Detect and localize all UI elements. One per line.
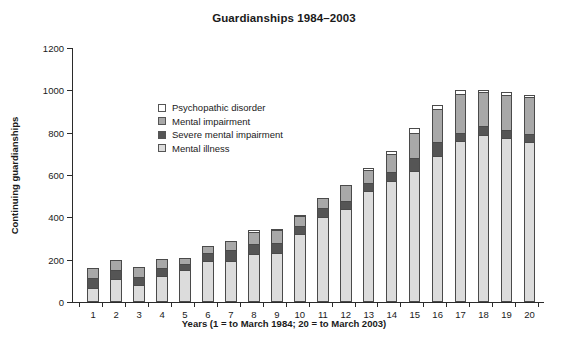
- legend-swatch-icon: [158, 104, 166, 112]
- bar-segment: [432, 156, 443, 302]
- x-axis-tick: [148, 302, 149, 307]
- bar-stack[interactable]: [478, 90, 489, 302]
- bar-stack[interactable]: [294, 215, 305, 302]
- bar-segment: [409, 158, 420, 171]
- bar-segment: [271, 243, 282, 254]
- bar-segment: [432, 109, 443, 142]
- bar-stack[interactable]: [87, 268, 98, 302]
- legend-item[interactable]: Mental impairment: [158, 115, 283, 129]
- bar-segment: [455, 141, 466, 302]
- bar-segment: [87, 278, 98, 289]
- y-axis-title: Continuing guardianships: [8, 48, 22, 302]
- bar-segment: [524, 142, 535, 302]
- bar-segment: [317, 208, 328, 218]
- y-axis-tick: [67, 302, 72, 303]
- x-axis-tick: [423, 302, 424, 307]
- bar-segment: [225, 261, 236, 302]
- bar-segment: [248, 244, 259, 255]
- bar-segment: [110, 279, 121, 302]
- legend-item[interactable]: Mental illness: [158, 142, 283, 156]
- legend-item[interactable]: Severe mental impairment: [158, 128, 283, 142]
- bar-segment: [501, 138, 512, 302]
- plot-area: 020040060080010001200 123456789101112131…: [72, 48, 544, 302]
- bar-segment: [386, 181, 397, 302]
- bar-stack[interactable]: [156, 259, 167, 302]
- bar-segment: [409, 133, 420, 158]
- bar-stack[interactable]: [340, 185, 351, 302]
- bar-segment: [133, 267, 144, 277]
- bar-stack[interactable]: [386, 151, 397, 302]
- x-axis-tick: [515, 302, 516, 307]
- bar-segment: [386, 154, 397, 172]
- x-axis-tick: [400, 302, 401, 307]
- y-axis-tick-label: 800: [48, 127, 64, 138]
- bar-stack[interactable]: [271, 229, 282, 302]
- legend-item-label: Psychopathic disorder: [172, 102, 265, 113]
- y-axis-tick: [67, 48, 72, 49]
- legend-swatch-icon: [158, 131, 166, 139]
- bar-segment: [110, 260, 121, 271]
- x-axis-tick: [446, 302, 447, 307]
- x-axis-title: Years (1 = to March 1984; 20 = to March …: [0, 318, 568, 329]
- bar-segment: [363, 183, 374, 190]
- bar-stack[interactable]: [432, 105, 443, 302]
- bar-stack[interactable]: [225, 241, 236, 302]
- bar-stack[interactable]: [409, 128, 420, 302]
- x-axis-tick: [377, 302, 378, 307]
- bar-stack[interactable]: [248, 230, 259, 302]
- chart-figure: Guardianships 1984–2003 Continuing guard…: [0, 0, 568, 352]
- x-axis-tick: [171, 302, 172, 307]
- legend-item-label: Severe mental impairment: [172, 129, 283, 140]
- legend-item-label: Mental impairment: [172, 116, 250, 127]
- bar-segment: [202, 261, 213, 302]
- y-axis-tick: [67, 133, 72, 134]
- bar-segment: [432, 142, 443, 156]
- bar-segment: [179, 270, 190, 302]
- bar-segment: [524, 134, 535, 142]
- bar-segment: [478, 135, 489, 302]
- bar-segment: [110, 270, 121, 278]
- bar-segment: [386, 172, 397, 182]
- bar-stack[interactable]: [110, 260, 121, 302]
- legend-item-label: Mental illness: [172, 143, 230, 154]
- bar-segment: [294, 226, 305, 234]
- x-axis-tick: [355, 302, 356, 307]
- bar-segment: [317, 217, 328, 302]
- bar-segment: [317, 198, 328, 208]
- y-axis-tick: [67, 260, 72, 261]
- x-axis-tick: [492, 302, 493, 307]
- bar-stack[interactable]: [524, 95, 535, 302]
- bar-segment: [501, 130, 512, 138]
- x-axis-tick: [286, 302, 287, 307]
- bar-stack[interactable]: [179, 258, 190, 302]
- bar-segment: [478, 92, 489, 126]
- bar-segment: [156, 276, 167, 302]
- bar-segment: [202, 246, 213, 253]
- bar-segment: [501, 95, 512, 130]
- chart-legend: Psychopathic disorderMental impairmentSe…: [158, 101, 283, 155]
- bar-segment: [294, 234, 305, 302]
- bar-segment: [271, 230, 282, 243]
- chart-title: Guardianships 1984–2003: [0, 12, 568, 24]
- bar-segment: [455, 94, 466, 133]
- bar-stack[interactable]: [455, 90, 466, 302]
- bar-segment: [294, 216, 305, 226]
- bar-stack[interactable]: [317, 198, 328, 302]
- bar-segment: [363, 170, 374, 184]
- bar-segment: [202, 253, 213, 260]
- x-axis-tick: [79, 302, 80, 307]
- legend-item[interactable]: Psychopathic disorder: [158, 101, 283, 115]
- bar-segment: [455, 133, 466, 141]
- bar-stack[interactable]: [133, 267, 144, 302]
- bar-segment: [524, 97, 535, 134]
- bar-stack[interactable]: [501, 92, 512, 302]
- x-axis-tick: [194, 302, 195, 307]
- y-axis-title-text: Continuing guardianships: [10, 116, 21, 234]
- y-axis-tick-label: 0: [59, 297, 64, 308]
- x-axis-tick: [332, 302, 333, 307]
- y-axis-line: [72, 48, 73, 302]
- bar-stack[interactable]: [202, 246, 213, 302]
- x-axis-tick: [217, 302, 218, 307]
- bar-stack[interactable]: [363, 168, 374, 302]
- bar-segment: [340, 201, 351, 208]
